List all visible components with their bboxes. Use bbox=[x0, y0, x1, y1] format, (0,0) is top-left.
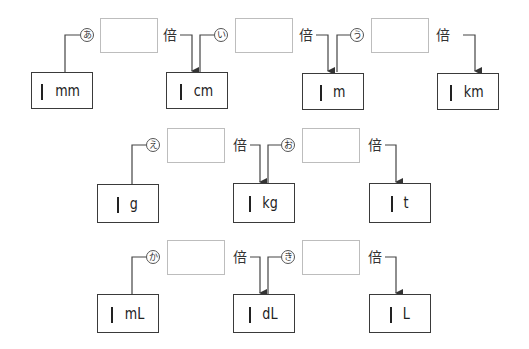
numeral-one bbox=[41, 84, 43, 100]
numeral-one bbox=[249, 307, 251, 323]
numeral-one bbox=[249, 196, 251, 212]
answer-input-ki[interactable] bbox=[302, 240, 360, 275]
unit-box-dl: dL bbox=[233, 294, 295, 333]
unit-label: kg bbox=[262, 194, 277, 212]
answer-input-u[interactable] bbox=[371, 18, 429, 53]
numeral-one bbox=[180, 84, 182, 100]
label-mark-a: あ bbox=[80, 28, 94, 42]
times-label: 倍 bbox=[299, 27, 313, 43]
answer-input-ka[interactable] bbox=[167, 240, 225, 275]
unit-box-km: km bbox=[437, 73, 499, 110]
answer-input-o[interactable] bbox=[302, 128, 360, 163]
unit-label: g bbox=[130, 195, 138, 213]
label-mark-ki: き bbox=[281, 250, 295, 264]
unit-box-g: g bbox=[97, 184, 159, 223]
unit-label: dL bbox=[262, 305, 277, 323]
times-label: 倍 bbox=[233, 137, 247, 153]
times-label: 倍 bbox=[368, 249, 382, 265]
times-label: 倍 bbox=[436, 27, 450, 43]
label-mark-o: お bbox=[281, 138, 295, 152]
numeral-one bbox=[117, 197, 119, 213]
unit-label: m bbox=[333, 83, 345, 101]
times-label: 倍 bbox=[368, 137, 382, 153]
answer-input-a[interactable] bbox=[100, 18, 158, 53]
numeral-one bbox=[450, 85, 452, 101]
times-label: 倍 bbox=[233, 249, 247, 265]
unit-box-cm: cm bbox=[166, 72, 228, 109]
unit-box-m: m bbox=[302, 73, 364, 110]
times-label: 倍 bbox=[163, 27, 177, 43]
numeral-one bbox=[320, 85, 322, 101]
label-mark-u: う bbox=[350, 28, 364, 42]
unit-box-kg: kg bbox=[233, 183, 295, 223]
numeral-one bbox=[111, 307, 113, 323]
label-mark-i: い bbox=[214, 28, 228, 42]
unit-box-mm: mm bbox=[31, 72, 93, 109]
unit-label: cm bbox=[193, 82, 212, 100]
unit-label: L bbox=[402, 305, 409, 323]
numeral-one bbox=[391, 196, 393, 212]
unit-box-t: t bbox=[369, 183, 431, 223]
unit-label: km bbox=[464, 83, 484, 101]
label-mark-ka: か bbox=[146, 250, 160, 264]
unit-label: mL bbox=[124, 305, 144, 323]
unit-label: t bbox=[403, 194, 408, 212]
unit-box-l: L bbox=[369, 294, 431, 333]
numeral-one bbox=[390, 307, 392, 323]
unit-box-ml: mL bbox=[97, 294, 159, 333]
answer-input-e[interactable] bbox=[167, 128, 225, 163]
label-mark-e: え bbox=[146, 138, 160, 152]
unit-label: mm bbox=[56, 82, 81, 100]
answer-input-i[interactable] bbox=[235, 18, 293, 53]
